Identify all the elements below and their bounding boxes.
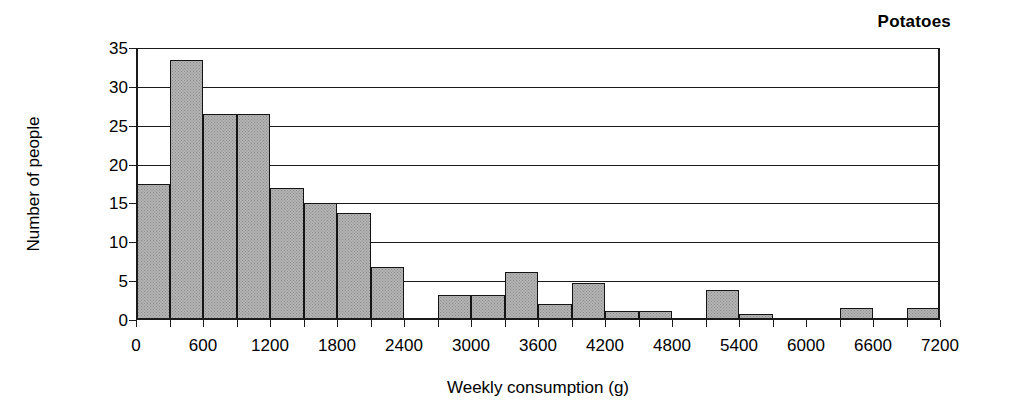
- x-tick-label: 7200: [900, 336, 980, 356]
- y-tick-mark: [129, 126, 136, 127]
- y-tick-mark: [129, 203, 136, 204]
- y-tick-mark: [129, 48, 136, 49]
- y-tick-label: 30: [88, 78, 128, 95]
- x-tick-mark: [940, 320, 941, 327]
- y-tick-label: 35: [88, 40, 128, 57]
- y-tick-label: 5: [88, 273, 128, 290]
- y-tick-mark: [129, 281, 136, 282]
- y-tick-label: 25: [88, 117, 128, 134]
- y-tick-label: 15: [88, 195, 128, 212]
- x-axis-tick-labels: 0600120018002400300036004200480054006000…: [136, 0, 940, 420]
- y-tick-mark: [129, 320, 136, 321]
- y-tick-mark: [129, 165, 136, 166]
- x-axis-title: Weekly consumption (g): [136, 378, 940, 398]
- y-tick-mark: [129, 242, 136, 243]
- y-tick-label: 0: [88, 312, 128, 329]
- y-tick-mark: [129, 87, 136, 88]
- y-tick-label: 20: [88, 156, 128, 173]
- y-tick-label: 10: [88, 234, 128, 251]
- y-axis-tick-labels: 05101520253035: [88, 48, 128, 320]
- y-axis-title: Number of people: [24, 48, 46, 320]
- histogram-figure: Potatoes Number of people 05101520253035…: [0, 0, 1013, 420]
